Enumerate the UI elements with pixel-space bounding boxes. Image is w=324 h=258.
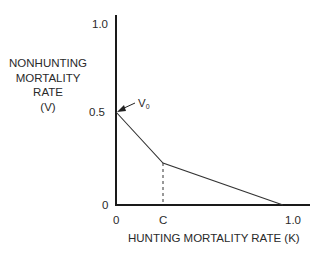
data-line bbox=[116, 112, 283, 205]
x-tick-c: C bbox=[159, 214, 167, 226]
v0-annotation: V0 bbox=[138, 97, 150, 110]
x-tick-0: 0 bbox=[113, 214, 119, 226]
y-axis-title-line: RATE bbox=[0, 85, 96, 100]
v0-label: V bbox=[138, 97, 146, 109]
x-axis-title: HUNTING MORTALITY RATE (K) bbox=[128, 232, 298, 244]
y-tick-1: 1.0 bbox=[92, 18, 108, 30]
y-axis-title: NONHUNTING MORTALITY RATE (V) bbox=[0, 56, 96, 114]
y-tick-0-5: 0.5 bbox=[89, 106, 105, 118]
x-tick-1: 1.0 bbox=[285, 214, 301, 226]
v0-arrow-head-icon bbox=[117, 105, 126, 112]
y-axis-title-line: MORTALITY bbox=[0, 71, 96, 86]
y-axis-title-line: (V) bbox=[0, 100, 96, 115]
chart-figure: NONHUNTING MORTALITY RATE (V) 1.0 0.5 0 … bbox=[0, 0, 324, 258]
y-tick-0: 0 bbox=[102, 199, 108, 211]
v0-subscript: 0 bbox=[146, 103, 150, 110]
y-axis-title-line: NONHUNTING bbox=[0, 56, 96, 71]
